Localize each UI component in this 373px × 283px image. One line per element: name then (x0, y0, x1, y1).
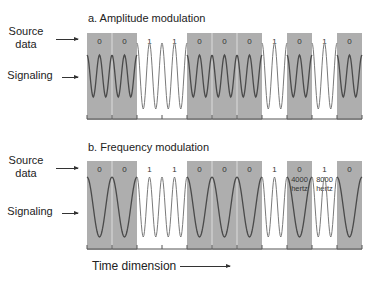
frequency-annotation: hertz (316, 184, 333, 193)
signaling-label-b: Signaling (2, 205, 58, 218)
bit-label: 1 (172, 165, 177, 174)
source-data-label-b: Source data (2, 154, 50, 180)
time-dimension-label: Time dimension (92, 259, 176, 273)
signal-wave (162, 177, 187, 237)
signal-wave (137, 177, 162, 237)
time-dimension-arrow (180, 266, 230, 267)
source-data-arrow-a (56, 39, 78, 40)
bit-label: 1 (147, 165, 152, 174)
bit-label: 1 (322, 165, 327, 174)
signaling-arrow-a (62, 77, 78, 78)
bit-label: 0 (297, 165, 302, 174)
signal-wave (312, 43, 337, 109)
frequency-modulation-title: b. Frequency modulation (88, 141, 209, 153)
bit-label: 0 (297, 37, 302, 46)
frequency-annotation: hertz (291, 184, 308, 193)
bit-label: 0 (222, 165, 227, 174)
source-data-label-a: Source data (2, 25, 50, 51)
bit-label: 0 (247, 165, 252, 174)
signal-wave (162, 43, 187, 109)
bit-label: 0 (347, 165, 352, 174)
bit-label: 0 (222, 37, 227, 46)
signaling-arrow-b (62, 213, 78, 214)
frequency-annotation: 4000 (291, 175, 308, 184)
amplitude-modulation-title: a. Amplitude modulation (88, 12, 205, 24)
bit-label: 0 (197, 37, 202, 46)
source-data-arrow-b (56, 168, 78, 169)
signal-wave (262, 43, 287, 109)
bit-label: 0 (247, 37, 252, 46)
bit-label: 0 (97, 37, 102, 46)
signal-wave (262, 177, 287, 237)
bit-label: 0 (347, 37, 352, 46)
bit-label: 0 (122, 37, 127, 46)
bit-label: 0 (197, 165, 202, 174)
signal-wave (137, 43, 162, 109)
signaling-label-a: Signaling (2, 69, 58, 82)
bit-label: 0 (122, 165, 127, 174)
bit-label: 1 (272, 165, 277, 174)
bit-label: 0 (97, 165, 102, 174)
